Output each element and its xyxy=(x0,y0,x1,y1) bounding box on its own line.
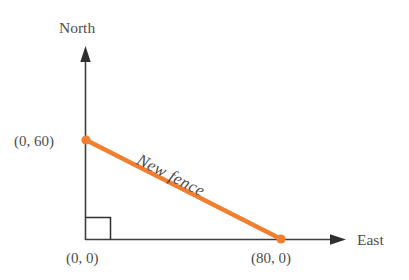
arrow-right-icon xyxy=(330,234,346,244)
right-angle-marker-icon xyxy=(86,218,111,241)
arrow-up-icon xyxy=(80,46,90,62)
axis-label-north: North xyxy=(59,20,95,36)
point-label-north: (0, 60) xyxy=(14,134,54,149)
diagram-canvas xyxy=(0,0,409,280)
point-marker-icon-east xyxy=(276,234,285,243)
point-marker-icon-north xyxy=(81,135,90,144)
axis-label-east: East xyxy=(357,232,384,248)
point-label-east: (80, 0) xyxy=(251,251,291,266)
fence-coordinate-diagram: North East (0, 60) (0, 0) (80, 0) New fe… xyxy=(0,0,409,280)
point-label-origin: (0, 0) xyxy=(66,251,99,266)
